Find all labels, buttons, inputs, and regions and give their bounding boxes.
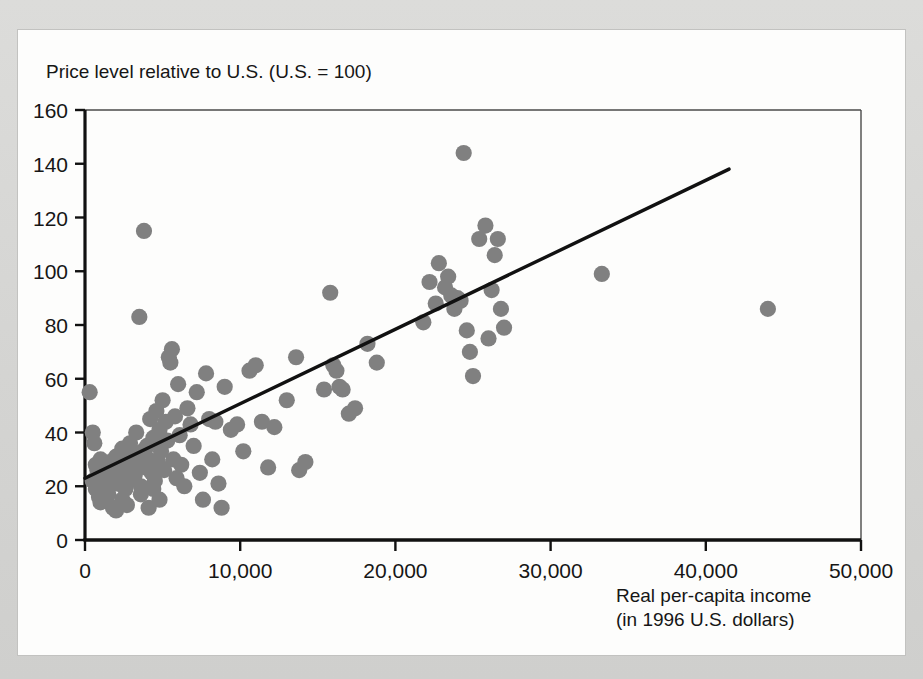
- data-point: [128, 424, 144, 440]
- y-axis-label: Price level relative to U.S. (U.S. = 100…: [46, 61, 372, 82]
- data-point: [260, 459, 276, 475]
- data-point: [217, 379, 233, 395]
- x-tick-label: 0: [79, 559, 91, 582]
- y-tick-label: 160: [33, 99, 68, 122]
- data-point: [204, 451, 220, 467]
- data-point: [322, 285, 338, 301]
- data-point: [229, 416, 245, 432]
- data-point: [347, 400, 363, 416]
- data-point: [170, 376, 186, 392]
- x-axis-caption: Real per-capita income (in 1996 U.S. dol…: [616, 585, 811, 630]
- x-tick-label: 10,000: [208, 559, 272, 582]
- trendline: [85, 169, 729, 478]
- x-axis-ticks: 010,00020,00030,00040,00050,000: [79, 540, 893, 582]
- x-tick-label: 40,000: [674, 559, 738, 582]
- y-axis-label-text: Price level relative to U.S. (U.S. = 100…: [46, 61, 372, 82]
- data-point: [186, 438, 202, 454]
- y-tick-label: 40: [45, 422, 68, 445]
- data-point: [248, 357, 264, 373]
- data-point: [496, 320, 512, 336]
- data-point: [195, 492, 211, 508]
- data-point: [136, 223, 152, 239]
- data-point: [210, 475, 226, 491]
- data-point: [82, 384, 98, 400]
- data-point: [335, 381, 351, 397]
- data-point: [328, 363, 344, 379]
- data-point: [431, 255, 447, 271]
- data-point: [235, 443, 251, 459]
- x-tick-label: 50,000: [829, 559, 893, 582]
- x-axis-caption-line1: Real per-capita income: [616, 585, 811, 606]
- y-tick-label: 120: [33, 207, 68, 230]
- data-point: [155, 392, 171, 408]
- x-tick-label: 20,000: [363, 559, 427, 582]
- x-axis-caption-line2: (in 1996 U.S. dollars): [616, 609, 794, 630]
- data-point: [465, 368, 481, 384]
- data-point: [456, 145, 472, 161]
- x-tick-label: 30,000: [518, 559, 582, 582]
- data-point: [189, 384, 205, 400]
- data-point: [369, 355, 385, 371]
- y-tick-label: 0: [56, 529, 68, 552]
- data-point: [131, 309, 147, 325]
- data-point: [459, 322, 475, 338]
- data-point: [477, 217, 493, 233]
- data-point: [316, 381, 332, 397]
- data-point: [164, 341, 180, 357]
- page-background: Price level relative to U.S. (U.S. = 100…: [0, 0, 923, 679]
- data-point: [594, 266, 610, 282]
- data-point: [119, 497, 135, 513]
- data-point: [487, 247, 503, 263]
- data-point: [198, 365, 214, 381]
- data-point: [213, 500, 229, 516]
- figure-card: Price level relative to U.S. (U.S. = 100…: [18, 30, 905, 655]
- data-point: [760, 301, 776, 317]
- y-tick-label: 80: [45, 314, 68, 337]
- data-point: [176, 478, 192, 494]
- data-point: [266, 419, 282, 435]
- y-tick-label: 20: [45, 475, 68, 498]
- data-point: [288, 349, 304, 365]
- data-point: [480, 330, 496, 346]
- y-tick-label: 140: [33, 153, 68, 176]
- data-point: [279, 392, 295, 408]
- trendline-layer: [85, 169, 729, 478]
- data-point: [440, 269, 456, 285]
- data-point: [192, 465, 208, 481]
- data-point: [421, 274, 437, 290]
- data-point: [490, 231, 506, 247]
- y-tick-label: 60: [45, 368, 68, 391]
- data-point: [179, 400, 195, 416]
- data-point: [493, 301, 509, 317]
- data-points-layer: [82, 145, 776, 519]
- data-point: [173, 457, 189, 473]
- y-axis-ticks: 020406080100120140160: [33, 99, 85, 552]
- chart-svg: Price level relative to U.S. (U.S. = 100…: [18, 30, 905, 655]
- data-point: [297, 454, 313, 470]
- y-tick-label: 100: [33, 260, 68, 283]
- data-point: [151, 492, 167, 508]
- data-point: [462, 344, 478, 360]
- data-point: [86, 435, 102, 451]
- scatter-chart: Price level relative to U.S. (U.S. = 100…: [18, 30, 905, 655]
